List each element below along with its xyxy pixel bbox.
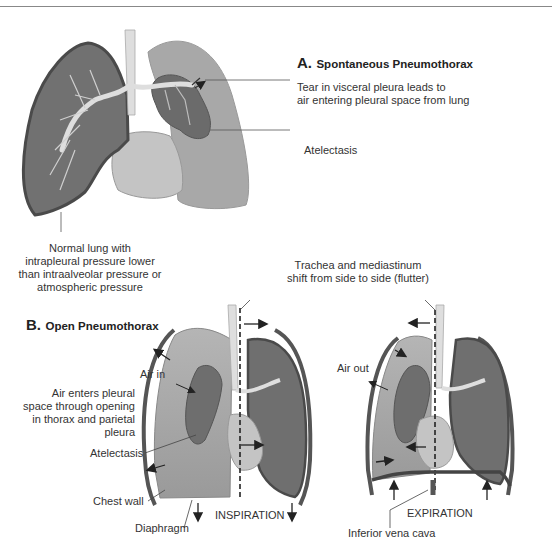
label-entry-line2: space through opening (10, 400, 135, 413)
leader-shift-insp (240, 300, 250, 310)
label-diaphragm: Diaphragm (135, 522, 189, 535)
label-inferior-vena-cava: Inferior vena cava (348, 527, 435, 540)
label-shift-line2: shift from side to side (flutter) (268, 272, 448, 285)
label-entry-line3: in thorax and parietal (10, 413, 135, 426)
label-shift-line1: Trachea and mediastinum (268, 259, 448, 272)
label-tear-line1: Tear in visceral pleura leads to (297, 81, 469, 94)
label-normal-line3: than intraalveolar pressure or (15, 268, 165, 281)
panel-a-letter: A. (297, 54, 312, 71)
label-tear: Tear in visceral pleura leads to air ent… (297, 81, 469, 107)
label-expiration: EXPIRATION (407, 507, 473, 520)
trachea-exp (436, 305, 444, 388)
panel-b-title-text: Open Pneumothorax (45, 320, 158, 332)
label-chest-wall: Chest wall (93, 495, 144, 508)
label-mediastinal-shift: Trachea and mediastinum shift from side … (268, 259, 448, 285)
label-inspiration: INSPIRATION (215, 509, 284, 522)
panel-a-title: A. Spontaneous Pneumothorax (297, 54, 473, 72)
label-air-entry: Air enters pleural space through opening… (10, 387, 135, 439)
panel-b-title: B. Open Pneumothorax (26, 316, 159, 334)
label-atelectasis-a: Atelectasis (304, 144, 357, 157)
label-normal-line4: atmospheric pressure (15, 281, 165, 294)
normal-lung-insp (248, 339, 306, 497)
label-normal-line2: intrapleural pressure lower (15, 255, 165, 268)
panel-b-inspiration (144, 300, 311, 528)
panel-a-lungs (23, 30, 290, 232)
panel-b-expiration (367, 300, 512, 528)
label-tear-line2: air entering pleural space from lung (297, 94, 469, 107)
label-atelectasis-b: Atelectasis (90, 447, 143, 460)
leader-shift-exp (425, 300, 435, 310)
label-normal-lung: Normal lung with intrapleural pressure l… (15, 242, 165, 294)
label-entry-line1: Air enters pleural (10, 387, 135, 400)
panel-a-title-text: Spontaneous Pneumothorax (316, 58, 473, 70)
label-air-out: Air out (337, 362, 369, 375)
panel-b-letter: B. (26, 316, 41, 333)
label-normal-line1: Normal lung with (15, 242, 165, 255)
label-air-in: Air in (140, 368, 165, 381)
label-entry-line4: pleura (10, 426, 135, 439)
